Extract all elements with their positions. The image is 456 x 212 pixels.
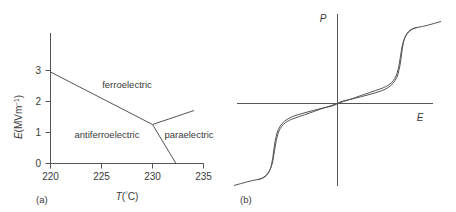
panel-a-y-ticklabel-1: 1	[35, 127, 41, 138]
panel-a-region-label-paraelectric: paraelectric	[164, 129, 213, 140]
panel-a-x-ticklabel-225: 225	[93, 171, 110, 182]
panel-b-id-label: (b)	[240, 194, 252, 205]
panel-a-x-ticks	[51, 164, 204, 169]
panel-b-loop-lower-left-saturation	[234, 180, 258, 186]
panel-b-loop-upper-right-saturation	[417, 22, 441, 28]
panel-a-x-ticklabel-220: 220	[42, 171, 59, 182]
panel-b-hysteresis-loop: P E (b)	[228, 0, 456, 212]
panel-b-p-axis-label: P	[320, 13, 327, 24]
panel-a-y-ticks	[46, 71, 51, 164]
panel-a-boundary-ferro-para	[153, 111, 195, 125]
panel-b-e-axis-label: E	[417, 112, 424, 123]
svg-text:E(MVm−1): E(MVm−1)	[13, 95, 25, 139]
panel-a-y-ticklabel-2: 2	[35, 96, 41, 107]
panel-b-loop-lower-left-ascending	[258, 107, 330, 180]
panel-a-x-ticklabel-230: 230	[144, 171, 161, 182]
panel-a-x-axis-label: T(°C)	[116, 191, 139, 203]
figure-container: 0 1 2 3 220 225 230 235 E(MVm−1) T(°C) f…	[0, 0, 456, 212]
panel-b-loop-upper-right-descending	[345, 28, 417, 101]
panel-a-region-label-ferroelectric: ferroelectric	[102, 79, 152, 90]
panel-a-y-ticklabel-3: 3	[35, 65, 41, 76]
panel-a-y-ticklabel-0: 0	[35, 158, 41, 169]
panel-a-id-label: (a)	[36, 194, 48, 205]
panel-a-region-label-antiferroelectric: antiferroelectric	[75, 129, 140, 140]
panel-a-phase-diagram: 0 1 2 3 220 225 230 235 E(MVm−1) T(°C) f…	[0, 0, 228, 212]
panel-a-x-ticklabel-235: 235	[195, 171, 212, 182]
panel-a-y-axis-label: E(MVm−1)	[13, 95, 25, 139]
